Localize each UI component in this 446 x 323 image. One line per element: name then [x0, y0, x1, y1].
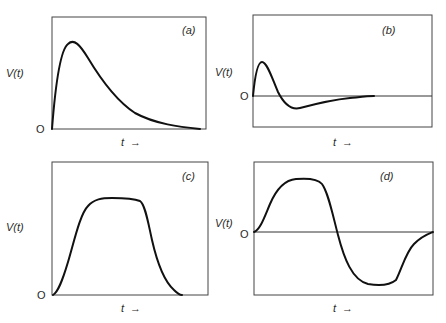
panel-d-zero: O [240, 228, 249, 240]
panel-b-frame [253, 15, 432, 127]
panel-d-ylabel: V(t) [215, 217, 233, 229]
panel-c-label: (c) [182, 170, 195, 182]
panel-b-label: (b) [382, 24, 396, 36]
panel-c-xlabel: t [121, 302, 125, 314]
panel-c-zero: O [37, 289, 46, 301]
panel-b-curve [253, 62, 374, 108]
panel-c-curve [53, 198, 182, 295]
panel-b-arrow: → [342, 136, 353, 148]
panel-a-xlabel: t [121, 136, 125, 148]
panel-c-ylabel: V(t) [6, 221, 24, 233]
panel-a-curve [52, 42, 200, 129]
panel-a-ylabel: V(t) [6, 67, 24, 79]
panel-b-ylabel: V(t) [215, 66, 233, 78]
panel-a-label: (a) [182, 24, 196, 36]
panel-d-arrow: → [342, 302, 353, 314]
panel-d-label: (d) [380, 170, 394, 182]
panel-a-arrow: → [130, 136, 141, 148]
panel-b-xlabel: t [333, 136, 337, 148]
panel-d: (d) V(t) O t → [215, 162, 433, 314]
panel-c-arrow: → [130, 302, 141, 314]
panel-c: (c) V(t) O t → [6, 162, 208, 314]
figure-canvas: (a) V(t) O t → (b) V(t) O t → (c) V(t) O… [0, 0, 446, 323]
panel-b-zero: O [240, 90, 249, 102]
panel-d-frame [254, 162, 433, 295]
panel-b: (b) V(t) O t → [215, 15, 432, 148]
panel-a-zero: O [36, 123, 45, 135]
panel-a: (a) V(t) O t → [6, 17, 206, 148]
panel-d-xlabel: t [333, 302, 337, 314]
